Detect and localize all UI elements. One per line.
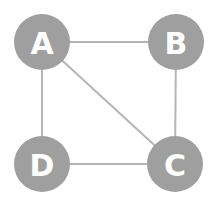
node-c-label: C [164,148,186,183]
node-d: D [14,136,70,192]
node-b: B [148,14,204,70]
node-c: C [147,136,203,192]
node-b-label: B [165,26,188,61]
node-a: A [14,14,70,70]
graph-diagram: A B C D [0,0,216,205]
node-a-label: A [30,26,54,61]
node-d-label: D [30,148,55,183]
